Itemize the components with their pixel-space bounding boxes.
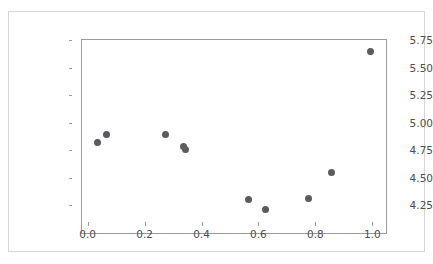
x-axis-tick-mark xyxy=(145,222,146,226)
x-axis-tick-mark xyxy=(315,222,316,226)
figure-card: 4.254.504.755.005.255.505.75 0.00.20.40.… xyxy=(8,11,425,252)
x-axis-tick-mark xyxy=(202,222,203,226)
screenshot-root: ··· ······ · ····· ··· ··· ······ 4.254.… xyxy=(0,0,433,264)
y-axis-tick-mark xyxy=(69,95,73,96)
x-axis-tick-mark xyxy=(88,222,89,226)
y-axis-tick-mark xyxy=(69,205,73,206)
y-axis-tick-mark xyxy=(69,68,73,69)
y-axis-tick-mark xyxy=(69,150,73,151)
y-axis-tick-mark xyxy=(69,123,73,124)
x-axis-tick-mark xyxy=(258,222,259,226)
axis-tick-marks xyxy=(0,0,433,264)
y-axis-tick-mark xyxy=(69,178,73,179)
x-axis-tick-mark xyxy=(372,222,373,226)
y-axis-tick-mark xyxy=(69,40,73,41)
